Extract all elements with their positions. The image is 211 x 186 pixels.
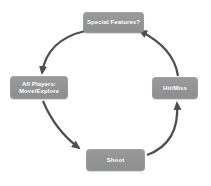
arrow-special-features-to-all-players (42, 31, 85, 73)
arrow-hit-miss-to-special-features (140, 31, 178, 76)
node-shoot-label: Shoot (107, 157, 125, 164)
cycle-diagram: Special Features? All Players: Move/Expl… (0, 0, 211, 186)
arrow-all-players-to-shoot (43, 101, 79, 148)
node-special-features-label: Special Features? (87, 19, 140, 26)
node-hit-miss: Hit/Miss (152, 77, 198, 99)
node-all-players-label-line2: Move/Explore (19, 88, 59, 95)
node-shoot: Shoot (86, 149, 145, 171)
node-special-features: Special Features? (83, 12, 144, 33)
node-all-players-label-line1: All Players: (22, 81, 56, 88)
arrow-shoot-to-hit-miss (147, 103, 177, 155)
node-all-players-move-explore: All Players: Move/Explore (10, 76, 68, 99)
node-hit-miss-label: Hit/Miss (163, 85, 187, 92)
